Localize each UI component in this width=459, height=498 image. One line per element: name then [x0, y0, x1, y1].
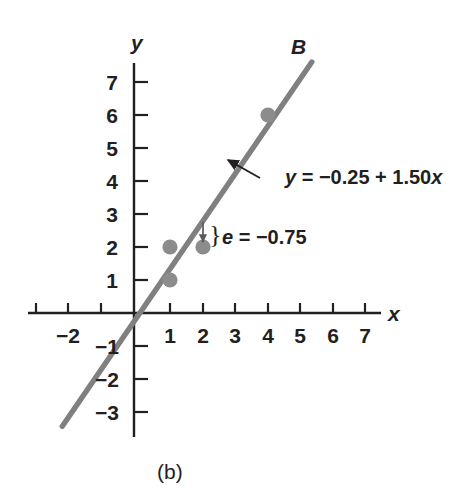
x-tick-label-6: 6	[321, 325, 345, 346]
equation-y-symbol: y	[285, 166, 296, 188]
residual-annotation-text: e = −0.75	[222, 227, 307, 247]
residual-e-symbol: e	[222, 226, 233, 248]
x-tick-label-7: 7	[353, 325, 377, 346]
equation-x-symbol: x	[431, 166, 442, 188]
x-tick-label-neg2: −2	[50, 325, 86, 346]
y-tick-label-7: 7	[100, 72, 124, 93]
data-point	[162, 239, 177, 254]
y-axis-ticks	[134, 82, 148, 412]
figure-panel: y x B 7 6 5 4 3 2 1 −1 −2 −3 −2 1 2 3 4 …	[0, 0, 459, 498]
y-tick-label-neg3: −3	[90, 402, 124, 423]
equation-body: = −0.25 + 1.50	[296, 166, 431, 188]
x-tick-label-3: 3	[223, 325, 247, 346]
data-point	[260, 107, 275, 122]
residual-value: = −0.75	[233, 226, 306, 248]
equation-annotation-text: y = −0.25 + 1.50x	[285, 167, 442, 187]
y-tick-label-3: 3	[100, 204, 124, 225]
x-tick-label-5: 5	[288, 325, 312, 346]
x-axis-label: x	[388, 303, 400, 324]
series-label-b: B	[291, 36, 306, 57]
data-point	[162, 272, 177, 287]
x-tick-label-4: 4	[256, 325, 280, 346]
y-axis-label: y	[131, 32, 143, 53]
y-tick-label-6: 6	[100, 105, 124, 126]
x-tick-label-2: 2	[191, 325, 215, 346]
y-tick-label-2: 2	[100, 237, 124, 258]
x-tick-label-1: 1	[158, 325, 182, 346]
x-axis-ticks	[36, 303, 365, 313]
y-tick-label-1: 1	[100, 270, 124, 291]
figure-caption: (b)	[157, 461, 183, 482]
y-tick-label-5: 5	[100, 138, 124, 159]
y-tick-label-4: 4	[100, 171, 124, 192]
y-tick-label-neg1: −1	[90, 336, 124, 357]
scatter-plot-svg	[0, 0, 459, 498]
residual-brace: }	[209, 222, 221, 248]
y-tick-label-neg2: −2	[90, 369, 124, 390]
